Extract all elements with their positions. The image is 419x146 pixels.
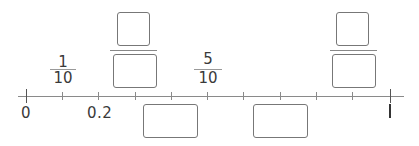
tick-0.9	[352, 92, 353, 100]
tick-0.5	[207, 92, 208, 100]
label-point-two: 0.2	[87, 106, 112, 121]
label-zero: 0	[21, 106, 31, 121]
fraction-numerator: 1	[55, 55, 71, 70]
tick-0.3	[135, 92, 136, 100]
tick-0	[26, 89, 27, 103]
tick-1	[390, 89, 391, 103]
fraction-bar	[110, 50, 157, 51]
fraction-bar	[330, 50, 377, 51]
fraction-denominator: 10	[51, 71, 75, 86]
fraction-numerator: 5	[196, 52, 220, 67]
tick-0.1	[62, 92, 63, 100]
fraction-denominator: 10	[195, 71, 221, 86]
tick-0.4	[171, 92, 172, 100]
decimal-input-box-left[interactable]	[143, 104, 198, 138]
denominator-input-box[interactable]	[113, 54, 157, 88]
tick-0.6	[243, 92, 244, 100]
numerator-input-box[interactable]	[336, 12, 369, 46]
decimal-input-box-right[interactable]	[253, 104, 308, 138]
tick-0.8	[316, 92, 317, 100]
numerator-input-box[interactable]	[117, 12, 150, 46]
tick-0.7	[280, 92, 281, 100]
denominator-input-box[interactable]	[332, 54, 376, 88]
number-line-axis	[18, 96, 404, 97]
label-one	[389, 104, 391, 118]
tick-0.2	[98, 92, 99, 100]
